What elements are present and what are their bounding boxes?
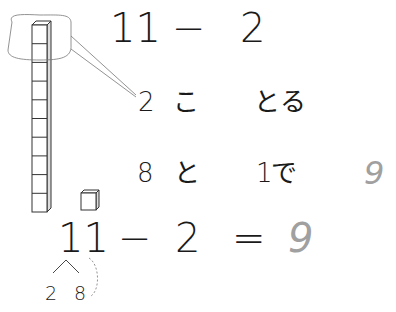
step1-counter: こ: [173, 89, 199, 115]
step1-verb: とる: [254, 89, 306, 115]
single-cube: [81, 190, 99, 210]
top-operand-a: 11: [110, 8, 161, 48]
step1-number: 2: [138, 89, 155, 115]
dashed-arc: [89, 258, 98, 296]
step2-particle: と: [174, 160, 200, 186]
decomposition-right: 8: [74, 284, 86, 303]
decomposition-left: 2: [45, 284, 57, 303]
bottom-operand-b: 2: [175, 218, 200, 258]
ten-cube-tower: [32, 21, 51, 212]
bottom-operand-a: 11: [58, 218, 109, 258]
bottom-answer: 9: [288, 218, 313, 258]
step2-number-8: 8: [137, 160, 154, 186]
top-operator: −: [172, 8, 206, 48]
bottom-equals: =: [232, 218, 266, 258]
bottom-operator: −: [118, 218, 152, 258]
step2-suffix: で: [271, 160, 297, 186]
step2-answer: 9: [364, 157, 384, 189]
decomposition-branch: [53, 260, 79, 273]
top-operand-b: 2: [240, 8, 265, 48]
